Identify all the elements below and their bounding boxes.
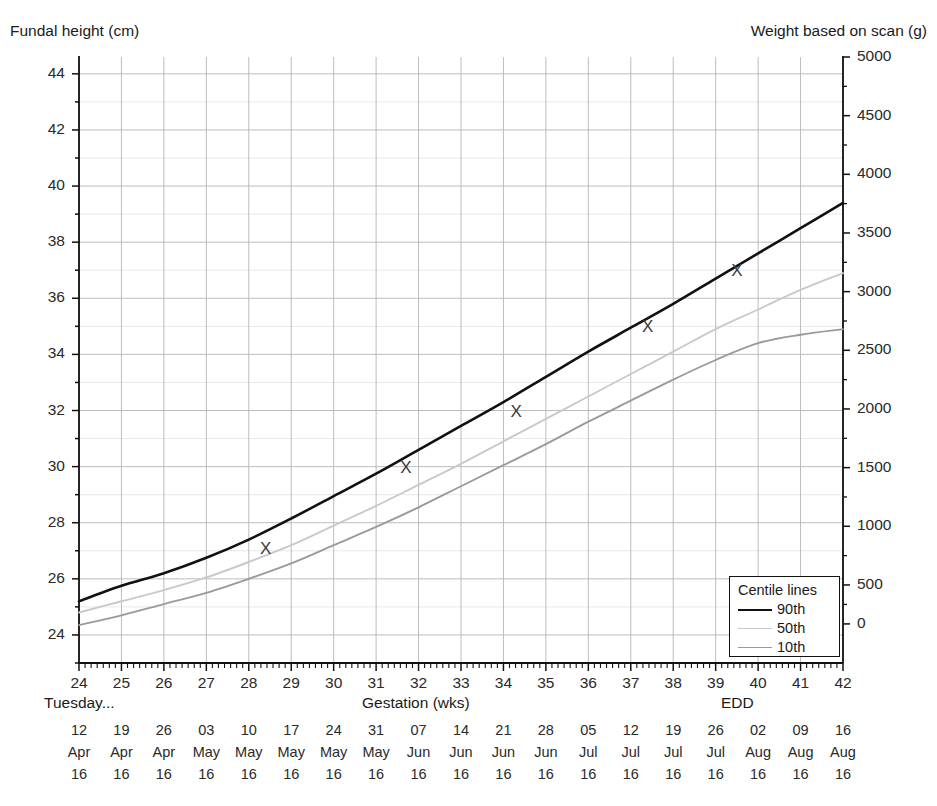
- y-axis-left-tick-label: 28: [17, 513, 65, 531]
- x-axis-week-label: 40: [734, 674, 782, 692]
- legend-line-swatch: [738, 628, 772, 629]
- y-axis-left-tick-label: 42: [17, 120, 65, 138]
- x-axis-week-label: 25: [97, 674, 145, 692]
- x-axis-date-day: 12: [55, 722, 103, 738]
- legend-entry: 50th: [730, 619, 839, 638]
- x-axis-date-day: 31: [352, 722, 400, 738]
- x-axis-date-year: 16: [310, 766, 358, 782]
- y-axis-left-tick-label: 36: [17, 288, 65, 306]
- y-axis-right-tick-label: 5000: [857, 47, 891, 65]
- x-axis-date-month: Jun: [479, 744, 527, 760]
- y-axis-right-tick-label: 1500: [857, 458, 891, 476]
- x-axis-date-year: 16: [395, 766, 443, 782]
- x-axis-week-label: 33: [437, 674, 485, 692]
- y-axis-right-tick-label: 4500: [857, 106, 891, 124]
- x-axis-date-year: 16: [607, 766, 655, 782]
- x-axis-week-label: 37: [607, 674, 655, 692]
- legend-entry: 90th: [730, 600, 839, 619]
- x-axis-date-month: Jun: [395, 744, 443, 760]
- x-axis-date-month: May: [225, 744, 273, 760]
- x-axis-date-month: Jul: [607, 744, 655, 760]
- x-axis-date-year: 16: [777, 766, 825, 782]
- legend-entry-label: 10th: [777, 638, 805, 657]
- x-axis-title: Gestation (wks): [362, 694, 470, 712]
- y-axis-left-tick-label: 34: [17, 344, 65, 362]
- x-axis-date-day: 21: [479, 722, 527, 738]
- y-axis-left-tick-label: 40: [17, 176, 65, 194]
- x-axis-date-year: 16: [182, 766, 230, 782]
- x-axis-date-month: May: [310, 744, 358, 760]
- legend-line-swatch: [738, 609, 772, 611]
- x-axis-date-month: Apr: [97, 744, 145, 760]
- y-axis-left-tick-label: 32: [17, 401, 65, 419]
- x-axis-week-label: 34: [479, 674, 527, 692]
- x-axis-date-day: 14: [437, 722, 485, 738]
- x-axis-date-year: 16: [734, 766, 782, 782]
- x-axis-date-year: 16: [225, 766, 273, 782]
- x-axis-date-month: Jun: [437, 744, 485, 760]
- x-axis-week-label: 26: [140, 674, 188, 692]
- x-axis-date-year: 16: [55, 766, 103, 782]
- x-axis-date-year: 16: [140, 766, 188, 782]
- y-axis-right-tick-label: 2000: [857, 399, 891, 417]
- y-axis-right-tick-label: 2500: [857, 340, 891, 358]
- x-axis-week-label: 24: [55, 674, 103, 692]
- x-axis-week-label: 36: [564, 674, 612, 692]
- x-axis-date-year: 16: [692, 766, 740, 782]
- y-axis-left-tick-label: 24: [17, 625, 65, 643]
- x-axis-date-day: 28: [522, 722, 570, 738]
- x-axis-date-month: Aug: [734, 744, 782, 760]
- y-axis-right-tick-label: 1000: [857, 516, 891, 534]
- major-gridlines: [79, 57, 843, 663]
- legend-title: Centile lines: [730, 581, 839, 600]
- svg-text:X: X: [731, 261, 742, 280]
- x-axis-date-month: Jul: [564, 744, 612, 760]
- x-axis-date-month: May: [267, 744, 315, 760]
- x-axis-date-day: 19: [97, 722, 145, 738]
- legend-line-swatch: [738, 647, 772, 648]
- y-axis-right-tick-label: 4000: [857, 164, 891, 182]
- x-axis-date-year: 16: [267, 766, 315, 782]
- legend: Centile lines 90th50th10th: [729, 576, 840, 657]
- x-axis-week-label: 35: [522, 674, 570, 692]
- x-axis-date-day: 10: [225, 722, 273, 738]
- x-axis-date-day: 02: [734, 722, 782, 738]
- x-axis-week-label: 31: [352, 674, 400, 692]
- x-axis-week-label: 41: [777, 674, 825, 692]
- fundal-height-growth-chart: Fundal height (cm) Weight based on scan …: [0, 0, 937, 806]
- x-axis-week-label: 27: [182, 674, 230, 692]
- x-axis-week-label: 38: [649, 674, 697, 692]
- legend-entries: 90th50th10th: [730, 600, 839, 657]
- y-axis-right-tick-label: 500: [857, 575, 883, 593]
- x-axis-date-day: 26: [692, 722, 740, 738]
- legend-entry-label: 50th: [777, 619, 805, 638]
- x-axis-date-year: 16: [479, 766, 527, 782]
- x-axis-date-day: 12: [607, 722, 655, 738]
- y-axis-left-tick-label: 26: [17, 569, 65, 587]
- svg-text:X: X: [642, 317, 653, 336]
- x-axis-date-month: May: [182, 744, 230, 760]
- legend-entry: 10th: [730, 638, 839, 657]
- x-axis-date-day: 16: [819, 722, 867, 738]
- x-axis-week-label: 30: [310, 674, 358, 692]
- x-axis-date-day: 07: [395, 722, 443, 738]
- x-axis-date-month: Aug: [777, 744, 825, 760]
- y-axis-right-tick-label: 3000: [857, 282, 891, 300]
- x-axis-date-year: 16: [352, 766, 400, 782]
- legend-entry-label: 90th: [777, 600, 805, 619]
- x-axis-date-month: Aug: [819, 744, 867, 760]
- x-axis-date-year: 16: [819, 766, 867, 782]
- x-axis-date-day: 03: [182, 722, 230, 738]
- x-axis-week-label: 28: [225, 674, 273, 692]
- x-axis-date-month: Jun: [522, 744, 570, 760]
- x-axis-date-day: 05: [564, 722, 612, 738]
- x-axis-date-month: Apr: [140, 744, 188, 760]
- x-axis-date-month: Jul: [649, 744, 697, 760]
- x-axis-date-day: 24: [310, 722, 358, 738]
- x-axis-date-day: 19: [649, 722, 697, 738]
- x-axis-date-year: 16: [437, 766, 485, 782]
- svg-text:X: X: [400, 458, 411, 477]
- x-axis-date-month: May: [352, 744, 400, 760]
- y-axis-left-tick-label: 38: [17, 232, 65, 250]
- x-axis-week-label: 42: [819, 674, 867, 692]
